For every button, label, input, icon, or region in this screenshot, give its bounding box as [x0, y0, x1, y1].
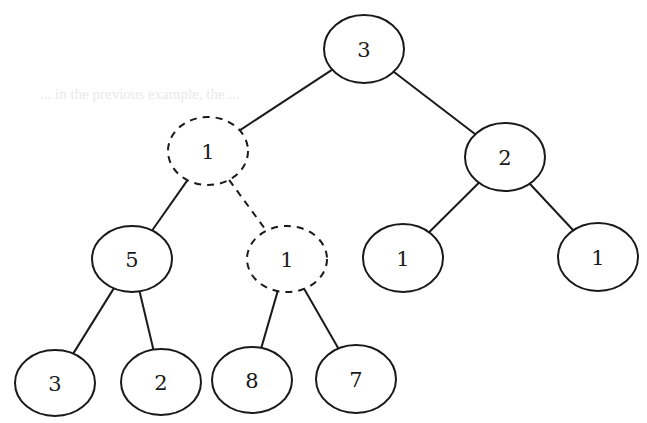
node-label: 2	[498, 146, 511, 170]
tree-edge-n2-n5	[429, 183, 479, 232]
node-label: 7	[349, 368, 362, 392]
tree-edge-n2-n6	[530, 184, 573, 231]
node-label: 3	[357, 38, 370, 62]
tree-edge-n4-n10	[304, 289, 338, 349]
node-label: 1	[201, 140, 214, 164]
tree-node: 1	[363, 224, 443, 292]
tree-node: 3	[15, 350, 95, 416]
node-label: 1	[280, 248, 293, 272]
tree-node: 5	[92, 226, 172, 292]
tree-edge-n3-n7	[73, 288, 114, 353]
tree-nodes: 31251113287	[15, 15, 638, 416]
tree-node: 1	[168, 117, 248, 185]
tree-edge-n1-n4	[229, 180, 266, 231]
tree-node: 8	[212, 347, 292, 413]
node-label: 1	[591, 246, 604, 270]
tree-node: 1	[247, 226, 327, 292]
tree-diagram: 31251113287	[0, 0, 647, 423]
tree-node: 2	[465, 123, 545, 191]
tree-node: 2	[121, 349, 201, 415]
node-label: 3	[48, 372, 61, 396]
tree-edge-n4-n9	[261, 291, 277, 348]
tree-edge-n0-n2	[394, 72, 476, 134]
tree-node: 3	[324, 15, 404, 83]
tree-edge-n3-n8	[140, 291, 154, 349]
tree-edge-n0-n1	[240, 70, 333, 131]
tree-edge-n1-n3	[152, 180, 187, 230]
node-label: 5	[125, 248, 138, 272]
node-label: 8	[245, 369, 258, 393]
tree-node: 1	[558, 223, 638, 291]
node-label: 2	[154, 371, 167, 395]
node-label: 1	[396, 247, 409, 271]
tree-edges	[73, 70, 573, 354]
tree-node: 7	[316, 345, 396, 413]
